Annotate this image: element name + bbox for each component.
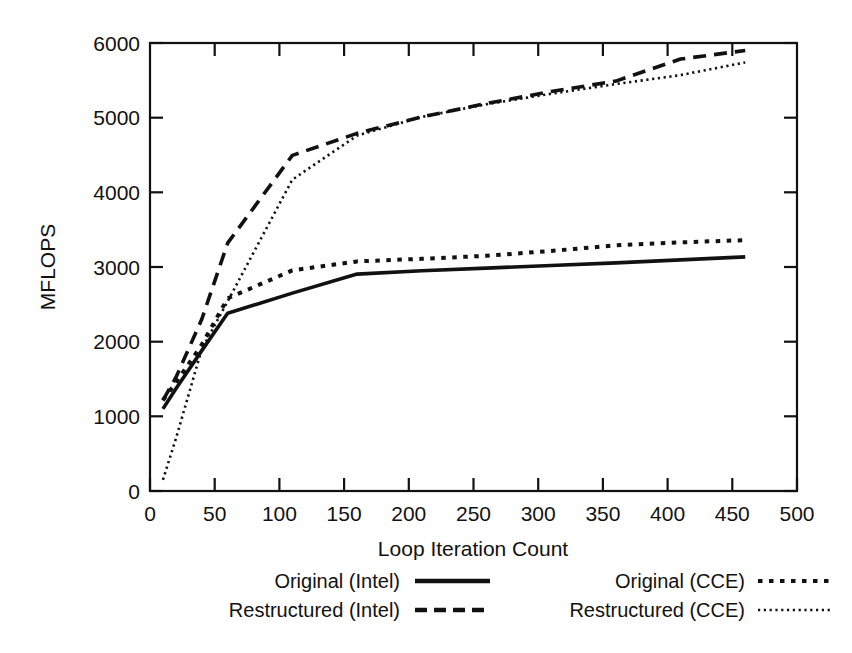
x-tick-label: 100 — [262, 502, 297, 525]
y-tick-labels: 0 1000 2000 3000 4000 5000 6000 — [93, 32, 140, 503]
x-tick-labels: 0 50 100 150 200 250 300 350 400 450 500 — [144, 502, 814, 525]
x-tick-label: 50 — [203, 502, 226, 525]
x-tick-label: 0 — [144, 502, 156, 525]
legend-label-restructured-cce: Restructured (CCE) — [569, 599, 745, 621]
y-axis-title: MFLOPS — [36, 224, 59, 310]
x-tick-label: 150 — [327, 502, 362, 525]
series-line-original-intel — [163, 257, 745, 409]
x-tick-label: 500 — [779, 502, 814, 525]
x-tick-label: 200 — [391, 502, 426, 525]
x-tick-label: 450 — [715, 502, 750, 525]
x-axis-title: Loop Iteration Count — [378, 537, 568, 560]
y-tick-label: 6000 — [93, 32, 140, 55]
y-tick-label: 3000 — [93, 256, 140, 279]
legend: Original (Intel) Restructured (Intel) Or… — [229, 570, 833, 621]
series-line-original-cce — [163, 240, 745, 400]
chart-svg: 0 1000 2000 3000 4000 5000 6000 0 50 100… — [0, 0, 852, 653]
series-group — [163, 50, 745, 479]
y-tick-label: 0 — [128, 480, 140, 503]
y-tick-label: 5000 — [93, 106, 140, 129]
y-tick-label: 4000 — [93, 181, 140, 204]
series-line-restructured-intel — [163, 50, 745, 400]
x-tick-label: 300 — [521, 502, 556, 525]
chart-figure: 0 1000 2000 3000 4000 5000 6000 0 50 100… — [0, 0, 852, 653]
legend-label-original-cce: Original (CCE) — [615, 570, 745, 592]
legend-label-restructured-intel: Restructured (Intel) — [229, 599, 400, 621]
x-tick-label: 400 — [650, 502, 685, 525]
x-tick-label: 250 — [456, 502, 491, 525]
x-tick-label: 350 — [585, 502, 620, 525]
y-tick-label: 2000 — [93, 330, 140, 353]
y-tick-label: 1000 — [93, 405, 140, 428]
legend-label-original-intel: Original (Intel) — [274, 570, 400, 592]
